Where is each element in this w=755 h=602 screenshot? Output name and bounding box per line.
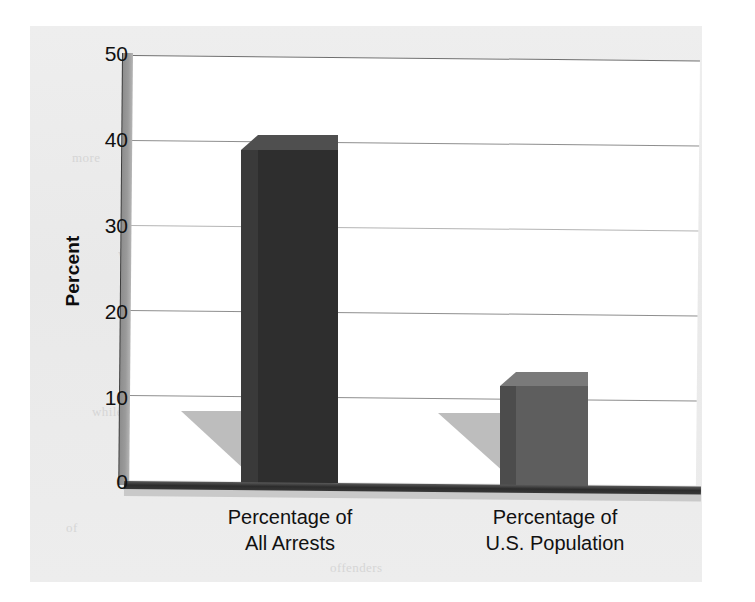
bar-front-face [258, 150, 338, 483]
x-label-all-arrests: Percentage of All Arrests [170, 505, 410, 556]
plot: 50 40 30 20 10 0 Percent Percentage of A… [0, 0, 755, 602]
gridline-10 [129, 395, 697, 401]
y-axis-title: Percent [62, 223, 84, 319]
x-label-line2: All Arrests [170, 531, 410, 557]
y-tick-label-20: 20 [82, 300, 128, 324]
x-label-line1: Percentage of [430, 505, 680, 531]
bar-side-face [500, 386, 516, 486]
y-tick-label-10: 10 [82, 386, 128, 410]
scanned-chart-figure: more reported the group with that the to… [0, 0, 755, 602]
x-label-line2: U.S. Population [430, 531, 680, 557]
bar-front-face [516, 386, 588, 486]
x-label-us-population: Percentage of U.S. Population [430, 505, 680, 556]
y-tick-label-50: 50 [82, 42, 128, 66]
bar-all-arrests [258, 135, 338, 483]
bar-top-left-bevel [241, 135, 258, 150]
gridline-40 [131, 140, 699, 146]
bar-top-left-bevel [500, 372, 516, 386]
bar-top-face [258, 135, 338, 150]
bar-us-population [516, 372, 588, 486]
y-tick-label-30: 30 [82, 214, 128, 238]
x-label-line1: Percentage of [170, 505, 410, 531]
y-tick-label-0: 0 [82, 470, 128, 494]
gridline-50 [132, 55, 700, 61]
bar-side-face [241, 150, 258, 483]
gridline-20 [130, 310, 698, 316]
y-tick-label-40: 40 [82, 128, 128, 152]
gridline-30 [130, 225, 698, 231]
bar-top-face [516, 372, 588, 386]
